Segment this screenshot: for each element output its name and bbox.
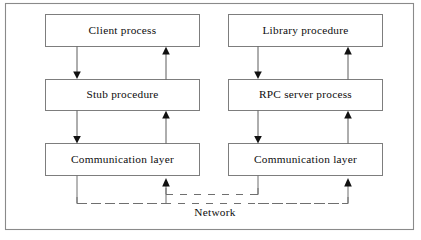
network-branch-corner-left (166, 188, 172, 195)
label-communication-layer-right: Communication layer (254, 153, 357, 165)
connector-network-to-comm-left (162, 178, 258, 204)
label-stub-procedure: Stub procedure (86, 88, 158, 100)
connector-comm-left-to-network (77, 176, 166, 204)
connector-rpc-to-library (344, 47, 352, 80)
connector-rpc-to-comm-right (254, 111, 262, 144)
connector-stub-to-comm-left (73, 111, 81, 144)
label-client-process: Client process (89, 24, 157, 36)
label-library-procedure: Library procedure (262, 24, 348, 36)
label-communication-layer-left: Communication layer (71, 153, 174, 165)
rpc-architecture-diagram: Client process Stub procedure Communicat… (0, 0, 421, 240)
network-bus-corner-left (77, 197, 83, 204)
connector-library-to-rpc (254, 47, 262, 80)
network-branch-corner-right (252, 188, 258, 195)
connector-comm-right-to-network (258, 176, 348, 204)
connector-stub-to-client (162, 47, 170, 80)
connector-comm-left-to-stub (162, 111, 170, 144)
label-network: Network (194, 206, 235, 218)
label-rpc-server-process: RPC server process (259, 88, 352, 100)
network-bus-corner-right (342, 197, 348, 204)
diagram-canvas: Client process Stub procedure Communicat… (0, 0, 421, 240)
connector-client-to-stub (73, 47, 81, 80)
connector-comm-right-to-rpc (344, 111, 352, 144)
